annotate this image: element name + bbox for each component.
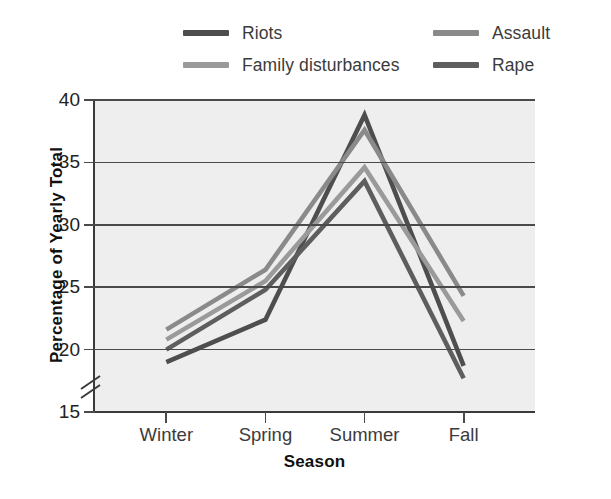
gridline bbox=[94, 99, 535, 101]
y-tick-mark bbox=[84, 162, 95, 164]
y-axis-line bbox=[93, 100, 95, 412]
x-tick-mark bbox=[165, 412, 167, 423]
gridline bbox=[94, 162, 535, 164]
x-tick-mark bbox=[265, 412, 267, 423]
x-tick-label: Fall bbox=[449, 424, 479, 446]
chart-figure: RiotsAssaultFamily disturbancesRape 4035… bbox=[0, 0, 611, 499]
series-line bbox=[166, 130, 463, 330]
axis-break-icon bbox=[78, 372, 108, 402]
y-tick-mark bbox=[84, 224, 95, 226]
gridline bbox=[94, 224, 535, 226]
x-tick-label: Summer bbox=[330, 424, 400, 446]
x-axis-title: Season bbox=[94, 452, 535, 472]
x-tick-mark bbox=[463, 412, 465, 423]
x-tick-label: Spring bbox=[239, 424, 292, 446]
y-axis-title: Percentage of Yearly Total bbox=[47, 95, 67, 415]
x-axis-line bbox=[94, 411, 535, 413]
series-line bbox=[166, 167, 463, 339]
y-tick-mark bbox=[84, 349, 95, 351]
plot-area bbox=[94, 100, 535, 412]
gridline bbox=[94, 349, 535, 351]
x-tick-mark bbox=[364, 412, 366, 423]
y-tick-mark bbox=[84, 411, 95, 413]
y-tick-mark bbox=[84, 99, 95, 101]
gridline bbox=[94, 286, 535, 288]
series-lines bbox=[94, 100, 535, 412]
series-line bbox=[166, 115, 463, 366]
plot-wrapper: 403530252015 Percentage of Yearly Total … bbox=[0, 0, 611, 499]
x-tick-label: Winter bbox=[140, 424, 193, 446]
y-tick-mark bbox=[84, 286, 95, 288]
